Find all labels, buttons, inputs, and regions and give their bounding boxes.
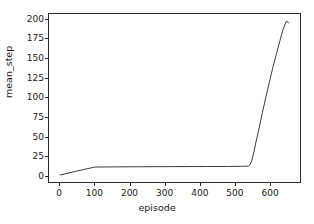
x-tick-label: 400 [191,189,208,198]
x-tick-label: 500 [226,189,243,198]
x-axis-label: episode [0,202,314,213]
y-tick-mark [45,156,48,157]
line-series-mean-step [60,21,288,175]
y-tick-mark [45,58,48,59]
y-axis-tick-labels: 0255075100125150175200 [0,0,44,224]
y-tick-mark [45,176,48,177]
y-tick-label: 50 [33,132,44,141]
y-tick-mark [45,97,48,98]
x-tick-label: 600 [261,189,278,198]
y-tick-label: 175 [27,34,44,43]
x-tick-mark [235,183,236,186]
x-tick-mark [270,183,271,186]
x-tick-label: 300 [156,189,173,198]
y-tick-mark [45,78,48,79]
x-tick-label: 100 [86,189,103,198]
line-series-svg [49,14,300,182]
y-tick-label: 125 [27,73,44,82]
x-tick-mark [94,183,95,186]
x-tick-mark [59,183,60,186]
x-tick-mark [200,183,201,186]
y-tick-mark [45,19,48,20]
y-tick-label: 75 [33,112,44,121]
y-tick-label: 25 [33,152,44,161]
y-tick-mark [45,117,48,118]
y-axis-label: mean_step [3,46,14,98]
y-tick-label: 200 [27,14,44,23]
y-tick-label: 150 [27,53,44,62]
x-tick-mark [130,183,131,186]
x-tick-label: 0 [56,189,62,198]
y-tick-label: 100 [27,93,44,102]
y-tick-mark [45,38,48,39]
chart-figure: 0255075100125150175200 mean_step 0100200… [0,0,314,224]
y-tick-label: 0 [38,171,44,180]
plot-area [48,13,301,183]
x-tick-label: 200 [121,189,138,198]
y-tick-mark [45,137,48,138]
x-tick-mark [165,183,166,186]
